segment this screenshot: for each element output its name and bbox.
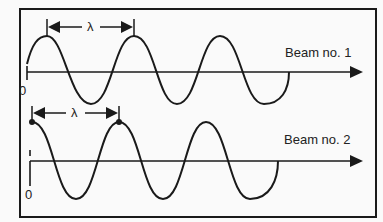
beam1-group bbox=[27, 19, 363, 104]
beam1-label: Beam no. 1 bbox=[285, 45, 352, 60]
wave-diagram bbox=[0, 0, 383, 222]
beam2-lambda-label: λ bbox=[71, 105, 78, 120]
beam2-label: Beam no. 2 bbox=[284, 132, 351, 147]
beam1-wave bbox=[27, 36, 289, 104]
beam1-lambda-label: λ bbox=[87, 19, 94, 34]
beam2-arrowhead bbox=[350, 155, 363, 167]
beam2-group bbox=[29, 106, 363, 199]
beam1-arrowhead bbox=[350, 66, 363, 78]
beam1-origin-label: 0 bbox=[19, 83, 26, 98]
beam2-origin-label: 0 bbox=[25, 187, 32, 202]
